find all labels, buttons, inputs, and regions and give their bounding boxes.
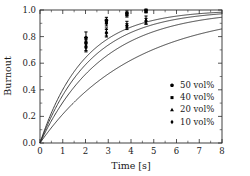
chart-figure: 012345678 0.00.20.40.60.81.0 50 vol%40 v…	[0, 0, 250, 176]
y-axis-title: Burnout	[2, 56, 13, 96]
data-point-marker	[145, 10, 148, 13]
burnout-vs-time-chart: 012345678 0.00.20.40.60.81.0 50 vol%40 v…	[0, 0, 250, 176]
x-tick-label: 5	[151, 146, 156, 156]
x-tick-label: 4	[128, 146, 133, 156]
x-tick-label: 3	[106, 146, 111, 156]
x-tick-label: 6	[174, 146, 179, 156]
x-tick-label: 8	[219, 146, 224, 156]
legend-marker-square	[170, 96, 173, 99]
x-tick-label: 7	[197, 146, 202, 156]
legend-label: 20 vol%	[180, 104, 214, 114]
legend-marker-pentagon	[170, 83, 174, 87]
x-tick-label: 0	[37, 146, 42, 156]
x-axis-tick-labels: 012345678	[37, 146, 224, 156]
legend-marker-diamond	[170, 120, 173, 124]
legend-label: 10 vol%	[180, 117, 214, 127]
legend-label: 40 vol%	[180, 92, 214, 102]
y-tick-label: 0.8	[22, 32, 36, 42]
series-datapoints	[84, 9, 148, 52]
x-axis-title: Time [s]	[111, 160, 150, 171]
data-point-marker	[105, 31, 108, 35]
data-point-marker	[105, 21, 108, 24]
x-tick-label: 1	[60, 146, 65, 156]
y-axis-tick-labels: 0.00.20.40.60.81.0	[22, 5, 36, 148]
y-tick-label: 0.4	[22, 85, 36, 95]
y-tick-label: 1.0	[22, 5, 36, 15]
y-tick-label: 0.2	[22, 111, 36, 121]
data-point-marker	[125, 13, 128, 16]
legend-marker-triangle	[170, 108, 174, 111]
x-tick-label: 2	[83, 146, 88, 156]
chart-legend: 50 vol%40 vol%20 vol%10 vol%	[170, 80, 214, 127]
y-tick-label: 0.6	[22, 58, 36, 68]
legend-label: 50 vol%	[180, 80, 214, 90]
y-tick-label: 0.0	[22, 138, 36, 148]
